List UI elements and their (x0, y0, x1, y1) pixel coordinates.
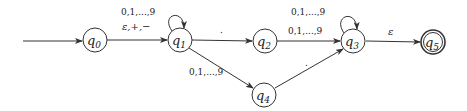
automaton-svg: ε,+,− 0,1,...,9 . 0,1,...,9 0,1,...,9 0,… (0, 0, 467, 111)
edge-q4-q3 (275, 49, 343, 88)
state-q3: q3 (341, 29, 365, 53)
edge-label-q4-q3: . (305, 58, 308, 68)
state-q1: q1 (168, 28, 192, 52)
edge-q3-q5 (366, 41, 420, 42)
edge-label-q3-loop: 0,1,...,9 (291, 7, 326, 17)
edge-label-q1-q4: 0,1,...,9 (189, 67, 224, 77)
state-q5-accepting: q5 (421, 30, 445, 54)
edge-label-q3-q5: ε (388, 26, 393, 37)
edge-label-q1-q2: . (220, 25, 223, 35)
edge-label-q0-q1: ε,+,− (122, 21, 150, 32)
edge-label-q1-loop: 0,1,...,9 (121, 7, 156, 17)
state-q4: q4 (252, 83, 276, 107)
automaton-diagram: ε,+,− 0,1,...,9 . 0,1,...,9 0,1,...,9 0,… (0, 0, 467, 111)
state-q0: q0 (83, 28, 107, 52)
edge-label-q2-q3: 0,1,...,9 (288, 26, 323, 36)
state-q2: q2 (253, 29, 277, 53)
edge-q1-q2 (192, 40, 252, 41)
